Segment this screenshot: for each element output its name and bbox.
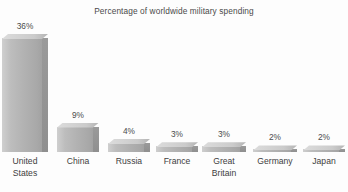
bar[interactable] (156, 142, 198, 152)
bar-front-face (57, 127, 93, 153)
bar-column: 3%France (156, 0, 198, 192)
bar-value-label: 9% (57, 110, 99, 120)
bar[interactable] (2, 34, 48, 152)
bar-category-label: Russia (108, 156, 150, 168)
bar[interactable] (253, 145, 297, 152)
bar-value-label: 2% (253, 132, 297, 142)
bar-front-face (2, 38, 42, 152)
bar-value-label: 36% (2, 21, 48, 31)
bar[interactable] (202, 142, 246, 152)
bar-value-label: 3% (202, 129, 246, 139)
bar-side-face (93, 127, 99, 153)
bar-category-label: Great Britain (202, 156, 246, 179)
bar-category-label: Germany (253, 156, 297, 168)
bar-value-label: 4% (108, 126, 150, 136)
bar-category-label: United States (2, 156, 48, 179)
bar-top-face (202, 142, 246, 147)
bar-value-label: 2% (303, 132, 345, 142)
bar-side-face (144, 143, 150, 152)
bar-side-face (42, 38, 48, 152)
bar-top-face (2, 34, 48, 39)
bar[interactable] (108, 139, 150, 152)
bar-side-face (192, 146, 198, 152)
bar-top-face (253, 145, 297, 150)
bar-column: 4%Russia (108, 0, 150, 192)
bar-front-face (108, 143, 144, 152)
bar-top-face (156, 142, 198, 147)
bar-category-label: China (57, 156, 99, 168)
bar-top-face (108, 139, 150, 144)
bar-column: 36%United States (2, 0, 48, 192)
bar-chart: Percentage of worldwide military spendin… (0, 0, 348, 192)
bar-column: 9%China (57, 0, 99, 192)
bar[interactable] (303, 145, 345, 152)
bar-side-face (291, 149, 297, 152)
bar-side-face (339, 149, 345, 152)
bar-column: 2%Japan (303, 0, 345, 192)
bar-category-label: Japan (303, 156, 345, 168)
bar-value-label: 3% (156, 129, 198, 139)
bar-side-face (240, 146, 246, 152)
bar-top-face (303, 145, 345, 150)
bar-top-face (57, 123, 99, 128)
bar-column: 3%Great Britain (202, 0, 246, 192)
bar[interactable] (57, 123, 99, 153)
bar-category-label: France (156, 156, 198, 168)
bar-column: 2%Germany (253, 0, 297, 192)
